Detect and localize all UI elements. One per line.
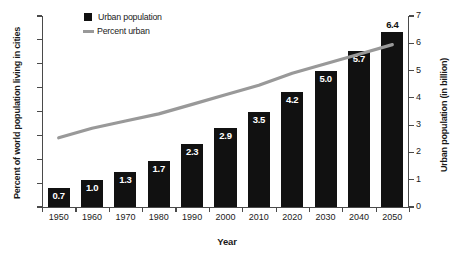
y-axis-right-tick — [409, 97, 414, 98]
y-axis-right-tick-label: 3 — [416, 119, 446, 129]
legend-item-percent-urban: Percent urban — [84, 25, 162, 37]
y-axis-right-tick — [409, 179, 414, 180]
y-axis-right-tick — [409, 152, 414, 153]
y-axis-right-tick — [409, 125, 414, 126]
legend-label-percent-urban: Percent urban — [97, 26, 150, 36]
y-axis-right-tick — [409, 70, 414, 71]
x-axis-line — [42, 207, 409, 208]
y-axis-right-tick-label: 4 — [416, 92, 446, 102]
y-axis-right-tick-label: 0 — [416, 201, 446, 211]
x-axis-tick-label: 2050 — [372, 212, 412, 222]
plot-area: 0.71.01.31.72.32.93.54.25.05.76.4 — [42, 16, 409, 207]
legend-item-urban-population: Urban population — [84, 11, 162, 23]
y-axis-right-tick — [409, 43, 414, 44]
line-series-percent-urban — [42, 16, 409, 207]
chart-figure: Percent of world population living in ci… — [0, 0, 454, 259]
y-axis-right-tick — [409, 15, 414, 16]
y-axis-right-tick-label: 1 — [416, 174, 446, 184]
y-axis-left-title: Percent of world population living in ci… — [12, 18, 22, 208]
legend-line-icon — [83, 30, 94, 33]
y-axis-right-tick-label: 2 — [416, 146, 446, 156]
legend-label-urban-population: Urban population — [98, 12, 162, 22]
legend-square-icon — [84, 13, 92, 21]
chart-legend: Urban population Percent urban — [84, 11, 162, 39]
y-axis-right-tick-label: 5 — [416, 65, 446, 75]
y-axis-right-tick-label: 6 — [416, 37, 446, 47]
y-axis-right-tick-label: 7 — [416, 10, 446, 20]
x-axis-title: Year — [0, 236, 454, 247]
